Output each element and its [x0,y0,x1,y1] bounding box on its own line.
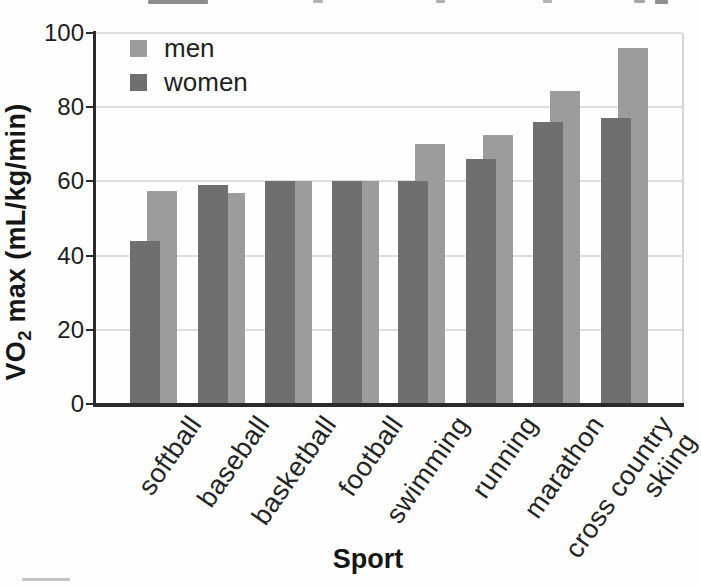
gridline-80 [95,106,682,108]
y-tick-label-40: 40 [30,244,84,268]
cropped-text-artifact-top [148,0,208,4]
bar-women-softball [130,241,160,404]
bar-women-swimming [398,181,428,404]
legend-swatch-women [130,74,147,91]
legend-item-women: women [130,72,248,92]
legend-item-men: men [130,38,248,58]
bar-women-football [332,181,362,404]
y-tick-label-20: 20 [30,318,84,342]
bar-women-cross-country-skiing [601,118,631,404]
cropped-text-artifact-top [655,0,668,4]
y-tick-label-100: 100 [30,21,84,45]
y-tick-mark-0 [86,403,95,405]
legend-label-men: men [164,38,215,58]
x-axis-line [93,403,684,407]
y-tick-label-0: 0 [30,392,84,416]
bar-women-running [466,159,496,404]
bar-women-basketball [265,181,295,404]
gridline-20 [95,329,682,331]
y-tick-mark-40 [86,255,95,257]
cropped-text-artifact-top [634,0,645,3]
y-axis-line [93,31,96,407]
y-tick-mark-80 [86,106,95,108]
gridline-60 [95,180,682,182]
legend: men women [130,38,248,106]
legend-swatch-men [130,40,147,57]
y-tick-mark-60 [86,180,95,182]
cropped-text-artifact-top [313,0,323,3]
y-tick-label-80: 80 [30,95,84,119]
vo2max-bar-chart-figure: 020406080100 softballbaseballbasketballf… [0,0,701,586]
cropped-text-artifact-top [436,0,445,3]
bar-women-baseball [198,185,228,404]
cropped-text-artifact-bottom [22,578,70,581]
cropped-text-artifact-top [543,0,552,3]
y-tick-mark-20 [86,329,95,331]
bar-women-marathon [533,122,563,404]
y-tick-mark-100 [86,32,95,34]
x-axis-title: Sport [333,544,404,575]
y-axis-title: VO2 max (mL/kg/min) [1,104,32,381]
y-tick-label-60: 60 [30,169,84,193]
plot-right-border [682,33,684,404]
legend-label-women: women [164,72,248,92]
gridline-40 [95,255,682,257]
